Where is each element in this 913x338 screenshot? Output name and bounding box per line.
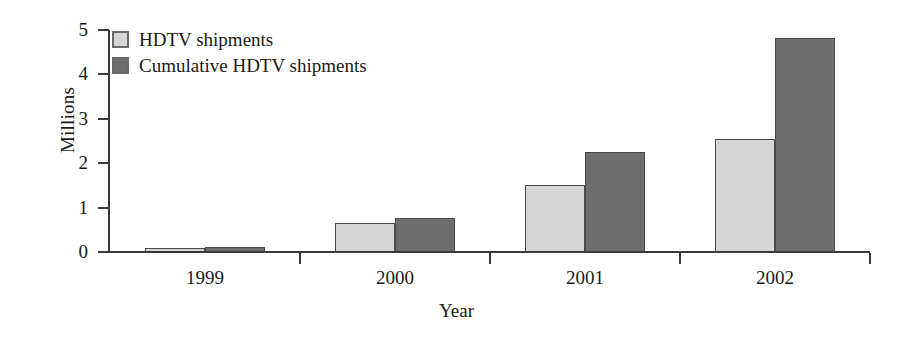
x-axis-tick-label: 2000 bbox=[335, 268, 455, 287]
x-axis-tick bbox=[489, 253, 491, 264]
legend-label: Cumulative HDTV shipments bbox=[139, 56, 367, 75]
bar bbox=[525, 185, 585, 252]
x-axis-tick-label: 2002 bbox=[715, 268, 835, 287]
x-axis-tick bbox=[679, 253, 681, 264]
x-axis-tick bbox=[299, 253, 301, 264]
legend-label: HDTV shipments bbox=[139, 30, 273, 49]
bar bbox=[335, 223, 395, 252]
legend-item-hdtv-shipments: HDTV shipments bbox=[112, 26, 367, 52]
legend: HDTV shipments Cumulative HDTV shipments bbox=[112, 26, 367, 78]
bar bbox=[715, 139, 775, 252]
bar bbox=[775, 38, 835, 252]
bar bbox=[395, 218, 455, 252]
legend-swatch-icon bbox=[112, 57, 129, 74]
legend-swatch-icon bbox=[112, 31, 129, 48]
x-axis-label: Year bbox=[0, 300, 913, 322]
bar bbox=[585, 152, 645, 252]
legend-item-cumulative-hdtv-shipments: Cumulative HDTV shipments bbox=[112, 52, 367, 78]
x-axis-tick-label: 2001 bbox=[525, 268, 645, 287]
x-axis-tick bbox=[869, 253, 871, 264]
bar-chart: Millions 012345 1999200020012002 Year HD… bbox=[0, 0, 913, 338]
x-axis-tick-label: 1999 bbox=[145, 268, 265, 287]
